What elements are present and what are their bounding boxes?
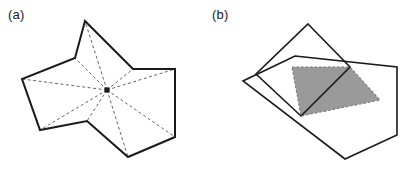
panel-b: (b) <box>204 0 409 171</box>
panel-b-label: (b) <box>212 8 229 21</box>
visibility-ray-2 <box>107 69 175 90</box>
intersection-region <box>292 67 380 116</box>
kernel-point-marker <box>104 87 109 92</box>
visibility-rays-group <box>22 21 175 157</box>
figure-root: (a) (b) <box>0 0 409 171</box>
panel-a: (a) <box>0 0 205 171</box>
visibility-ray-1 <box>107 69 133 90</box>
visibility-ray-5 <box>87 90 107 121</box>
visibility-ray-7 <box>22 79 107 90</box>
panel-b-drawing <box>204 0 409 171</box>
visibility-ray-3 <box>107 90 175 137</box>
star-shaped-polygon <box>22 21 175 157</box>
panel-a-label: (a) <box>8 8 25 21</box>
panel-a-drawing <box>0 0 205 171</box>
